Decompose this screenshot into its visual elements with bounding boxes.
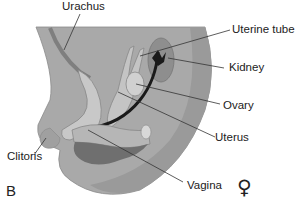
panel-letter: B [6,183,16,198]
label-urachus: Urachus [62,1,105,13]
ovary-structure [126,72,144,96]
label-uterus: Uterus [215,132,249,144]
label-clitoris: Clitoris [7,151,42,163]
rectum-end [141,125,151,139]
label-uterine-tube: Uterine tube [232,24,295,36]
label-vagina: Vagina [187,180,222,192]
female-symbol-icon: ♀ [237,177,252,197]
label-ovary: Ovary [223,100,254,112]
label-kidney: Kidney [229,62,264,74]
